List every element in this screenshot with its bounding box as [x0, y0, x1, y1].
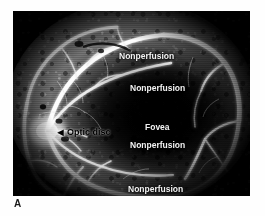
annotation-label-text: Fovea: [145, 122, 170, 132]
annotation-nonperfusion-superior: Nonperfusion: [119, 52, 174, 61]
annotation-nonperfusion-fovea: Nonperfusion: [130, 141, 185, 150]
annotation-nonperfusion-midsuperior: Nonperfusion: [130, 84, 185, 93]
figure-root: Nonperfusion Nonperfusion Fovea Nonperfu…: [0, 0, 265, 216]
angiogram-image: Nonperfusion Nonperfusion Fovea Nonperfu…: [13, 11, 250, 196]
annotation-label-text: Nonperfusion: [128, 184, 183, 194]
annotation-optic-disc: ◄Optic disc: [55, 126, 110, 137]
annotation-label-text: Nonperfusion: [130, 140, 185, 150]
annotation-nonperfusion-inferior: Nonperfusion: [128, 185, 183, 194]
panel-letter: A: [14, 199, 21, 209]
left-arrow-icon: ◄: [55, 127, 66, 138]
annotation-label-text: Nonperfusion: [130, 83, 185, 93]
annotation-fovea: Fovea: [145, 123, 170, 132]
retinal-vessel-tree: [13, 11, 250, 196]
annotation-label-text: Nonperfusion: [119, 51, 174, 61]
annotation-label-text: Optic disc: [67, 127, 111, 137]
